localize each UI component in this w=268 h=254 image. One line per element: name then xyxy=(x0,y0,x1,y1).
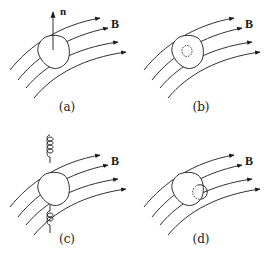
panel-d: B (d) xyxy=(134,127,268,254)
panel-b: B (b) xyxy=(134,0,268,127)
field-label-b: B xyxy=(245,154,253,169)
caption-a: (a) xyxy=(0,100,134,114)
normal-vector-label: n xyxy=(60,5,66,17)
field-label-b: B xyxy=(111,154,119,169)
field-label-b: B xyxy=(245,17,253,32)
caption-d: (d) xyxy=(134,232,268,246)
caption-c: (c) xyxy=(0,232,134,246)
panel-c: B (c) xyxy=(0,127,134,254)
caption-b: (b) xyxy=(134,100,268,114)
field-label-b: B xyxy=(111,17,119,32)
helical-coil-top-icon xyxy=(47,135,53,163)
panel-a: n B (a) xyxy=(0,0,134,127)
